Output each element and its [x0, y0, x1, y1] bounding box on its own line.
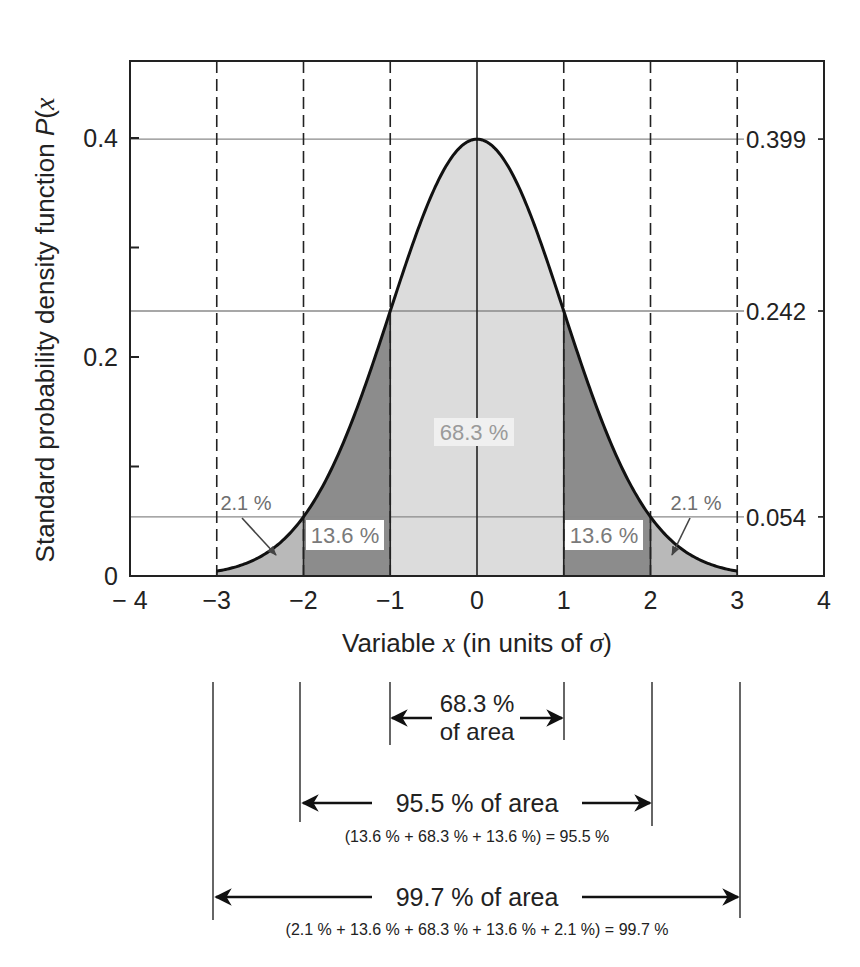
pointer-arrow-left [242, 518, 276, 555]
y-tick-label-left: 0.4 [83, 124, 118, 152]
normal-distribution-chart: 68.3 % 13.6 % 13.6 % 2.1 % 2.1 % − 4−3−2… [0, 0, 860, 967]
label-2-left: 2.1 % [220, 492, 271, 514]
label-68-center: 68.3 % [440, 420, 509, 445]
span-99-formula: (2.1 % + 13.6 % + 68.3 % + 13.6 % + 2.1 … [286, 921, 669, 938]
x-tick-label: 0 [470, 586, 484, 614]
y-tick-label-left: 0 [104, 562, 118, 590]
span-annotations: 68.3 % of area 95.5 % of area (13.6 % + … [213, 682, 740, 938]
x-tick-label: 1 [557, 586, 571, 614]
y-tick-label-left: 0.2 [83, 343, 118, 371]
span-99-label: 99.7 % of area [396, 883, 559, 911]
span-95-label: 95.5 % of area [396, 789, 559, 817]
x-tick-label: −3 [202, 586, 231, 614]
x-tick-label: − 4 [112, 586, 148, 614]
x-tick-labels: − 4−3−2−101234 [112, 586, 831, 614]
span-68-line2: of area [440, 718, 515, 745]
x-tick-label: −2 [289, 586, 318, 614]
x-tick-label: 2 [644, 586, 658, 614]
y-tick-labels-right: 0.3990.2420.054 [744, 125, 818, 531]
y-tick-label-right: 0.399 [746, 126, 806, 153]
x-tick-label: 3 [730, 586, 744, 614]
label-2-right: 2.1 % [670, 492, 721, 514]
x-tick-label: −1 [376, 586, 405, 614]
y-tick-label-right: 0.054 [746, 504, 806, 531]
y-tick-labels-left: 00.20.4 [83, 124, 118, 590]
label-13-left: 13.6 % [311, 523, 380, 548]
y-tick-label-right: 0.242 [746, 298, 806, 325]
span-95-formula: (13.6 % + 68.3 % + 13.6 %) = 95.5 % [345, 828, 610, 845]
x-axis-title: Variable x (in units of σ) [342, 627, 612, 658]
y-axis-title: Standard probability density function P(… [29, 97, 60, 562]
label-13-right: 13.6 % [570, 523, 639, 548]
x-tick-label: 4 [817, 586, 831, 614]
span-68-line1: 68.3 % [440, 690, 515, 717]
